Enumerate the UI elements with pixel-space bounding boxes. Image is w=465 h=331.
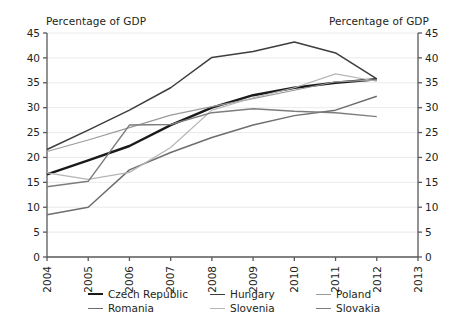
y-tick-label-left: 20 [27,151,40,163]
legend-label: Poland [336,288,371,300]
y-tick-label-left: 15 [27,176,40,188]
y-tick-label-right: 15 [425,176,438,188]
legend-swatch-icon [210,308,225,309]
y-tick-label-right: 40 [425,52,438,64]
legend-item-hungary[interactable]: Hungary [210,287,316,301]
gridlines [47,33,418,232]
y-axis-left: 051015202530354045 [27,27,47,263]
legend-item-romania[interactable]: Romania [88,301,210,315]
y-tick-label-right: 5 [425,226,432,238]
legend-swatch-icon [316,294,331,295]
y-tick-label-left: 45 [27,27,40,39]
chart-legend: Czech RepublicHungaryPolandRomaniaSloven… [88,287,428,315]
legend-label: Slovenia [230,302,275,314]
series-line-slovakia [47,109,377,187]
legend-label: Czech Republic [108,288,188,300]
y-tick-label-right: 30 [425,101,438,113]
series-line-romania [47,96,377,214]
y-tick-label-left: 0 [33,251,40,263]
data-series-group [47,42,377,215]
y-tick-label-right: 45 [425,27,438,39]
chart-container: Percentage of GDP Percentage of GDP 0510… [0,0,465,331]
y-tick-label-left: 10 [27,201,40,213]
x-tick-label: 2004 [41,266,53,293]
legend-item-czech-republic[interactable]: Czech Republic [88,287,210,301]
legend-swatch-icon [316,308,331,309]
y-tick-label-right: 0 [425,251,432,263]
legend-item-poland[interactable]: Poland [316,287,416,301]
legend-row: RomaniaSloveniaSlovakia [88,301,428,315]
legend-label: Romania [108,302,154,314]
y-tick-label-left: 25 [27,126,40,138]
legend-row: Czech RepublicHungaryPoland [88,287,428,301]
y-tick-label-left: 40 [27,52,40,64]
legend-item-slovakia[interactable]: Slovakia [316,301,416,315]
legend-label: Slovakia [336,302,380,314]
y-tick-label-left: 35 [27,76,40,88]
y-tick-label-left: 30 [27,101,40,113]
y-axis-right: 051015202530354045 [418,27,438,263]
legend-item-slovenia[interactable]: Slovenia [210,301,316,315]
legend-swatch-icon [88,293,103,295]
legend-swatch-icon [210,294,225,295]
y-tick-label-right: 10 [425,201,438,213]
y-tick-label-right: 20 [425,151,438,163]
y-tick-label-right: 35 [425,76,438,88]
legend-swatch-icon [88,308,103,309]
legend-label: Hungary [230,288,275,300]
line-plot: 051015202530354045 051015202530354045 20… [0,0,465,331]
y-tick-label-left: 5 [33,226,40,238]
series-line-poland [47,80,377,152]
y-tick-label-right: 25 [425,126,438,138]
